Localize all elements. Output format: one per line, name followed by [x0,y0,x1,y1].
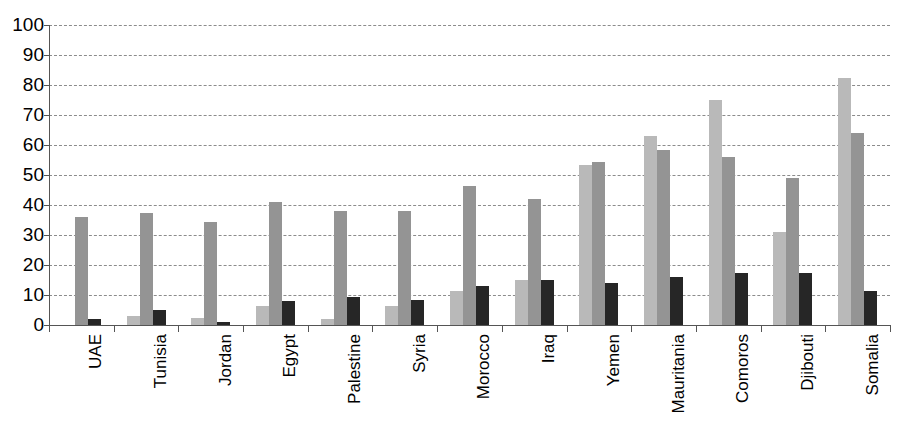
x-axis-label: Mauritania [670,334,687,413]
bar-group [567,25,632,325]
y-axis-tick-label: 60 [0,135,44,154]
x-axis-label: Morocco [475,334,492,399]
x-axis-label-cell: Mauritania [631,332,696,429]
bar [786,178,799,325]
x-axis-tick-mark [631,325,632,332]
bar-group [761,25,826,325]
bar [709,100,722,325]
bar-group [437,25,502,325]
bar-group [243,25,308,325]
bar [851,133,864,325]
y-axis-tick-label: 50 [0,165,44,184]
bar [722,157,735,325]
x-axis-label: Egypt [281,334,298,377]
x-axis-tick-mark [372,325,373,332]
bar [334,211,347,325]
x-axis-label: Iraq [540,334,557,363]
x-axis-label-cell: Somalia [825,332,890,429]
x-axis-tick-mark [890,325,891,332]
bar [463,186,476,326]
bar [450,291,463,326]
bar [347,297,360,326]
x-axis-tick-mark [114,325,115,332]
x-axis-label: Comoros [734,334,751,403]
x-axis-label-cell: Djibouti [761,332,826,429]
x-axis-label: Syria [411,334,428,373]
bar [799,273,812,326]
bar-group [825,25,890,325]
bar-group [631,25,696,325]
x-axis-tick-mark [825,325,826,332]
bar [476,286,489,325]
bar [385,306,398,326]
bar [864,291,877,326]
y-axis: 1009080706050403020100 [0,0,44,429]
y-axis-tick-label: 70 [0,105,44,124]
bar [735,273,748,326]
x-axis-label: Somalia [864,334,881,395]
x-axis-label: UAE [87,334,104,369]
x-axis-label-cell: UAE [49,332,114,429]
bar [269,202,282,325]
x-axis-label: Palestine [346,334,363,404]
bar [140,213,153,326]
bar [838,78,851,326]
bar-group [49,25,114,325]
bar [75,217,88,325]
y-axis-tick-label: 0 [0,315,44,334]
x-axis-label-cell: Yemen [567,332,632,429]
bar [592,162,605,326]
bar [541,280,554,325]
bar-group [308,25,373,325]
bar-group [502,25,567,325]
x-axis-tick-mark [178,325,179,332]
x-axis-label: Yemen [605,334,622,386]
x-axis-label: Djibouti [799,334,816,391]
x-axis-tick-mark [761,325,762,332]
y-axis-tick-label: 20 [0,255,44,274]
x-axis-tick-mark [243,325,244,332]
y-axis-tick-label: 40 [0,195,44,214]
bar [515,280,528,325]
x-axis-tick-mark [437,325,438,332]
x-axis-tick-mark [567,325,568,332]
bar-group [372,25,437,325]
bar [127,316,140,325]
x-axis-label-cell: Morocco [437,332,502,429]
bar [411,300,424,326]
y-axis-tick-label: 30 [0,225,44,244]
y-axis-tick-label: 100 [0,15,44,34]
bar [204,222,217,326]
y-axis-tick-label: 80 [0,75,44,94]
bar-group [114,25,179,325]
bar [398,211,411,325]
bar [670,277,683,325]
bar-group [696,25,761,325]
x-axis-label-cell: Jordan [178,332,243,429]
x-axis-label-cell: Tunisia [114,332,179,429]
bar [644,136,657,325]
y-axis-tick-label: 10 [0,285,44,304]
x-axis-tick-mark [49,325,50,332]
x-axis-label-cell: Palestine [308,332,373,429]
bar-groups [49,25,890,325]
bar-chart: 1009080706050403020100 UAETunisiaJordanE… [0,0,900,429]
bar [528,199,541,325]
x-axis-label: Jordan [217,334,234,386]
bar [605,283,618,325]
x-axis-labels: UAETunisiaJordanEgyptPalestineSyriaMoroc… [49,332,890,429]
bar [773,232,786,325]
bar [256,306,269,326]
x-axis-label-cell: Iraq [502,332,567,429]
x-axis-tick-mark [308,325,309,332]
x-axis-label: Tunisia [152,334,169,388]
bar [191,318,204,326]
bar [153,310,166,325]
bar [282,301,295,325]
y-axis-tick-label: 90 [0,45,44,64]
x-axis-label-cell: Syria [372,332,437,429]
x-axis-tick-mark [696,325,697,332]
x-axis-label-cell: Comoros [696,332,761,429]
bar [579,165,592,326]
bar [657,150,670,326]
